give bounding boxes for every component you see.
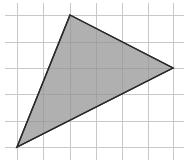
grid-triangle-diagram [0,0,184,167]
